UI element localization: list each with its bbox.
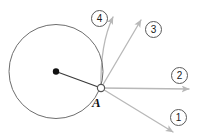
vector-1 <box>101 88 173 132</box>
vector-3 <box>101 20 141 88</box>
point-a-marker <box>97 84 104 91</box>
center-dot <box>53 68 59 74</box>
vector-4-label: 4 <box>91 10 108 27</box>
point-a-label: A <box>92 96 101 109</box>
geometry-figure: A 1234 <box>0 0 203 140</box>
vector-3-label: 3 <box>145 21 162 38</box>
vector-1-label: 1 <box>170 109 187 126</box>
vector-2-label: 2 <box>171 67 188 84</box>
vector-2 <box>101 88 189 89</box>
radius-line <box>56 72 101 89</box>
